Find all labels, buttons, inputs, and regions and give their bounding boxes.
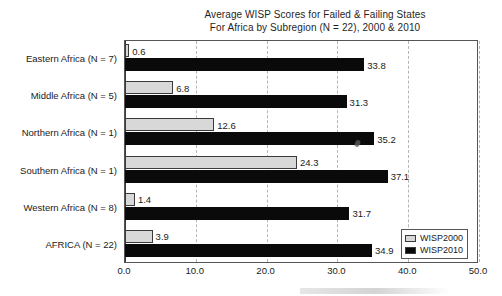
bar-wisp2010: 35.2 — [125, 132, 374, 145]
bar-wisp2000: 3.9 — [125, 230, 153, 243]
bar-value-label: 0.6 — [132, 45, 145, 56]
bar-wisp2010: 33.8 — [125, 58, 364, 71]
x-tick-label: 20.0 — [256, 265, 275, 276]
chart-subtitle: For Africa by Subregion (N = 22), 2000 &… — [150, 21, 480, 34]
legend-label-wisp2010: WISP2010 — [420, 245, 463, 255]
x-tick-label: 30.0 — [327, 265, 346, 276]
legend-item-wisp2010: WISP2010 — [405, 244, 463, 256]
x-tick-label: 40.0 — [398, 265, 417, 276]
bar-wisp2010: 31.7 — [125, 207, 349, 220]
bar-value-label: 24.3 — [300, 157, 319, 168]
y-axis-category-label: AFRICA (N = 22) — [45, 226, 117, 263]
bar-value-label: 34.9 — [375, 245, 394, 256]
page-edge-smudge — [300, 288, 450, 294]
bar-wisp2000: 0.6 — [125, 44, 129, 57]
y-axis-labels: Eastern Africa (N = 7)Middle Africa (N =… — [0, 40, 120, 263]
legend-label-wisp2000: WISP2000 — [420, 233, 463, 243]
bar-wisp2010: 34.9 — [125, 244, 372, 257]
bar-wisp2010: 31.3 — [125, 95, 347, 108]
y-axis-category-label: Eastern Africa (N = 7) — [26, 40, 117, 77]
bar-value-label: 35.2 — [377, 133, 396, 144]
y-axis-category-label: Southern Africa (N = 1) — [20, 152, 117, 189]
bar-wisp2000: 12.6 — [125, 118, 214, 131]
legend-swatch-icon-wisp2000 — [405, 235, 416, 242]
legend-item-wisp2000: WISP2000 — [405, 232, 463, 244]
bar-group: 1.431.7 — [125, 190, 477, 227]
x-axis-labels: 0.010.020.030.040.050.0 — [124, 265, 478, 279]
bar-wisp2010: 37.1 — [125, 170, 388, 183]
x-tick-label: 50.0 — [469, 265, 488, 276]
bar-group: 6.831.3 — [125, 78, 477, 115]
bar-wisp2000: 1.4 — [125, 193, 135, 206]
bar-group: 24.337.1 — [125, 153, 477, 190]
x-tick-label: 10.0 — [186, 265, 205, 276]
bar-value-label: 1.4 — [138, 194, 151, 205]
chart-title: Average WISP Scores for Failed & Failing… — [150, 8, 480, 21]
y-axis-category-label: Western Africa (N = 8) — [23, 189, 117, 226]
bar-value-label: 3.9 — [156, 231, 169, 242]
gridline-50.0 — [479, 41, 480, 262]
bar-value-label: 12.6 — [217, 119, 236, 130]
y-axis-category-label: Northern Africa (N = 1) — [22, 114, 117, 151]
x-tick-label: 0.0 — [117, 265, 130, 276]
bar-wisp2000: 6.8 — [125, 81, 173, 94]
chart-legend: WISP2000 WISP2010 — [401, 229, 468, 259]
bar-group: 12.635.2 — [125, 115, 477, 152]
bar-value-label: 37.1 — [391, 171, 410, 182]
legend-swatch-icon-wisp2010 — [405, 247, 416, 254]
chart-figure: Average WISP Scores for Failed & Failing… — [0, 0, 502, 296]
bar-wisp2000: 24.3 — [125, 156, 297, 169]
bar-value-label: 31.3 — [350, 96, 369, 107]
bar-value-label: 33.8 — [367, 59, 386, 70]
bar-value-label: 31.7 — [352, 208, 371, 219]
chart-title-block: Average WISP Scores for Failed & Failing… — [150, 8, 480, 34]
bar-value-label: 6.8 — [176, 82, 189, 93]
bar-group: 0.633.8 — [125, 41, 477, 78]
y-axis-category-label: Middle Africa (N = 5) — [31, 77, 117, 114]
